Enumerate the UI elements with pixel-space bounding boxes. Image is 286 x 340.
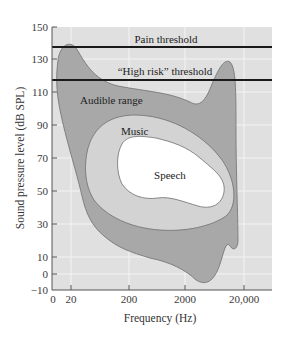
high-risk-threshold-label: “High risk” threshold	[118, 65, 213, 77]
svg-text:0: 0	[43, 268, 49, 280]
pain-threshold-label: Pain threshold	[134, 33, 198, 45]
svg-text:150: 150	[32, 21, 49, 33]
audible-range-chart: Pain threshold “High risk” threshold Aud…	[0, 0, 286, 340]
audible-range-label: Audible range	[80, 94, 143, 106]
svg-text:0: 0	[50, 293, 56, 305]
svg-text:50: 50	[37, 185, 49, 197]
svg-text:90: 90	[37, 119, 49, 131]
x-axis-title: Frequency (Hz)	[124, 312, 197, 325]
svg-text:200: 200	[121, 293, 138, 305]
svg-text:−10: −10	[31, 284, 49, 296]
svg-text:2000: 2000	[174, 293, 197, 305]
svg-text:10: 10	[37, 251, 49, 263]
y-axis-title: Sound pressure level (dB SPL)	[14, 87, 27, 230]
svg-text:110: 110	[32, 86, 49, 98]
svg-text:30: 30	[37, 218, 49, 230]
svg-text:130: 130	[32, 53, 49, 65]
svg-text:20,000: 20,000	[229, 293, 260, 305]
y-tick-labels: 150 130 110 90 70 50 30 10 0 −10	[31, 21, 49, 296]
x-tick-labels: 0 20 200 2000 20,000	[50, 293, 259, 305]
svg-text:20: 20	[66, 293, 78, 305]
music-label: Music	[121, 125, 149, 137]
svg-text:70: 70	[37, 152, 49, 164]
speech-label: Speech	[154, 169, 186, 181]
